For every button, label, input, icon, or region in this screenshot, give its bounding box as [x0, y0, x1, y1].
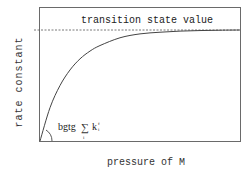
- slope-annotation-term: k: [92, 121, 97, 132]
- slope-annotation-sum-index: i: [83, 135, 85, 140]
- slope-annotation-prefix: bgtg: [58, 121, 76, 132]
- x-axis-label: pressure of M: [107, 157, 185, 168]
- slope-annotation-superscript: f: [98, 121, 100, 126]
- y-axis-label: rate constant: [14, 36, 25, 127]
- slope-annotation-subscript: i: [98, 127, 100, 132]
- chart: transition state value bgtg ∑ i k f i ra…: [0, 0, 250, 175]
- slope-annotation: bgtg ∑ i k f i: [58, 121, 100, 140]
- slope-angle-arc: [46, 130, 52, 141]
- asymptote-label: transition state value: [81, 15, 213, 26]
- slope-annotation-sum: ∑: [81, 121, 89, 134]
